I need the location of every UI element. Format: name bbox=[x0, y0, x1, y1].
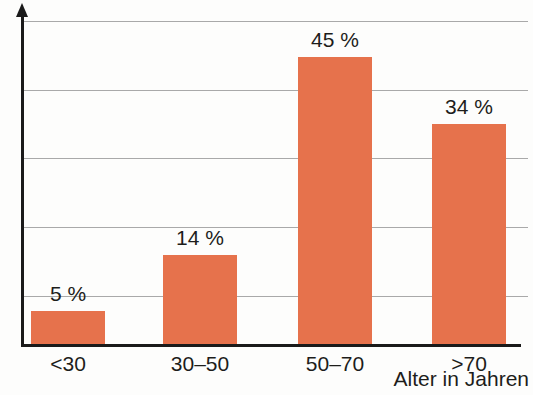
bar-value-label-gt70: 34 % bbox=[432, 95, 506, 119]
bar-value-label-lt30: 5 % bbox=[31, 282, 105, 306]
plot-area: 5 % 14 % 45 % 34 % <30 30–50 50–70 >70 A… bbox=[0, 0, 533, 395]
category-label-50-70: 50–70 bbox=[293, 352, 377, 376]
bar-50-70 bbox=[298, 57, 372, 345]
y-axis bbox=[21, 14, 24, 346]
bar-chart: 5 % 14 % 45 % 34 % <30 30–50 50–70 >70 A… bbox=[0, 0, 533, 395]
bar-value-label-50-70: 45 % bbox=[298, 28, 372, 52]
bar-gt70 bbox=[432, 124, 506, 345]
bar-30-50 bbox=[163, 255, 237, 345]
gridline bbox=[24, 90, 528, 91]
x-axis-title: Alter in Jahren bbox=[394, 367, 529, 391]
category-label-lt30: <30 bbox=[31, 352, 105, 376]
x-axis bbox=[21, 344, 521, 347]
bar-lt30 bbox=[31, 311, 105, 345]
y-axis-arrow-icon bbox=[16, 3, 28, 17]
category-label-30-50: 30–50 bbox=[158, 352, 242, 376]
bar-value-label-30-50: 14 % bbox=[163, 226, 237, 250]
gridline bbox=[24, 21, 528, 22]
